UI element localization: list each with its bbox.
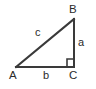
side-label-b: b [43, 70, 49, 81]
triangle-side-c-hypotenuse [16, 19, 74, 67]
vertex-label-a: A [9, 70, 17, 82]
vertex-label-b: B [69, 4, 77, 16]
vertex-label-c: C [69, 70, 77, 82]
side-label-c: c [35, 27, 41, 38]
side-label-a: a [78, 37, 84, 48]
right-triangle-figure: A B C a b c [0, 0, 96, 89]
right-angle-square-icon [67, 59, 73, 66]
